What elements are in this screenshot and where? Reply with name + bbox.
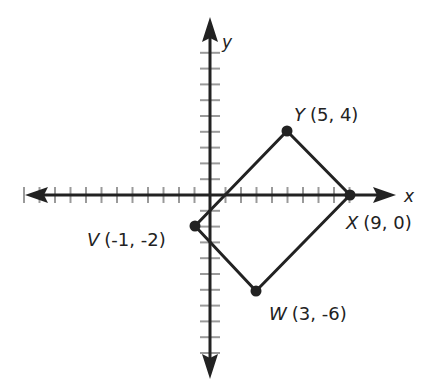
point-w: [251, 286, 262, 297]
label-x: X(9, 0): [345, 212, 412, 233]
point-x: [345, 190, 356, 201]
x-axis-label: x: [403, 186, 415, 206]
label-v: V(-1, -2): [87, 229, 166, 250]
label-y: Y(5, 4): [294, 104, 358, 125]
point-v: [190, 221, 201, 232]
label-w: W(3, -6): [269, 303, 347, 324]
coordinate-plane: x y Y(5, 4) X(9, 0) W(3, -6) V(-1, -2): [0, 0, 441, 392]
y-axis-label: y: [221, 32, 233, 52]
point-y: [282, 126, 293, 137]
